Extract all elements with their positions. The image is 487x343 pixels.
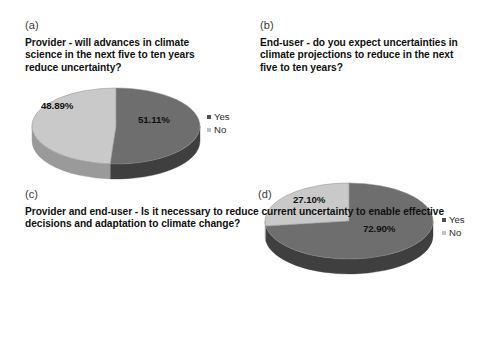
panel-a-value-no: 48.89% <box>41 100 73 111</box>
legend-swatch-no-icon <box>207 128 211 132</box>
legend-swatch-no-icon <box>442 231 446 235</box>
panel-a-chart: 51.11% 48.89% Yes No <box>30 82 245 177</box>
panel-a-caption: Provider - will advances in climate scie… <box>25 37 210 74</box>
legend-item-no: No <box>207 124 230 137</box>
panel-b-label: (b) <box>260 19 485 31</box>
pie-chart-a <box>30 82 208 177</box>
legend-label-yes: Yes <box>214 111 230 124</box>
legend-item-yes: Yes <box>207 111 230 124</box>
panel-a: (a) Provider - will advances in climate … <box>25 19 240 74</box>
figure-root: (a) Provider - will advances in climate … <box>0 0 487 343</box>
panel-a-value-yes: 51.11% <box>138 114 170 125</box>
panel-b-caption: End-user - do you expect uncertainties i… <box>260 37 463 74</box>
panel-b: (b) End-user - do you expect uncertainti… <box>260 19 485 74</box>
panel-d-label: (d) <box>258 188 272 200</box>
legend-label-no: No <box>214 124 226 137</box>
legend-swatch-yes-icon <box>207 115 211 119</box>
panel-a-label: (a) <box>25 19 240 31</box>
panel-cd-caption: Provider and end-user - Is it necessary … <box>25 206 465 231</box>
panel-c-label: (c) <box>25 188 38 200</box>
panel-b-value-no: 27.10% <box>293 194 325 205</box>
panel-a-legend: Yes No <box>207 111 230 136</box>
